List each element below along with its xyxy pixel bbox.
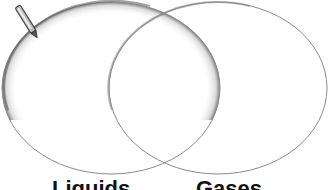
venn-diagram: Liquids Gases	[0, 0, 328, 190]
left-set-ellipse	[2, 1, 220, 174]
venn-canvas	[0, 0, 328, 190]
left-set-label: Liquids	[52, 178, 130, 190]
right-set-label: Gases	[196, 178, 262, 190]
